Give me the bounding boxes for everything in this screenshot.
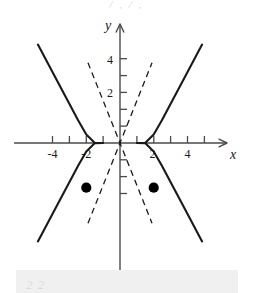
x-axis-ticks: [53, 136, 205, 143]
x-axis-label: x: [229, 147, 237, 162]
y-tick-labels: 2 4: [107, 53, 113, 101]
y-axis-label: y: [103, 18, 112, 33]
x-tick-label-4: 4: [185, 147, 191, 161]
hyperbola-plot: -4 -2 2 4 2 4 x y: [0, 0, 253, 293]
caption-band: 2 2: [16, 270, 238, 293]
x-tick-label-neg4: -4: [48, 147, 58, 161]
y-axis-ticks: [120, 59, 127, 194]
caption-text: 2 2: [26, 277, 45, 293]
y-tick-label-2: 2: [107, 86, 113, 100]
x-tick-labels: -4 -2 2 4: [48, 147, 191, 161]
hyperbola-figure: / , / ,: [0, 0, 253, 293]
y-tick-label-4: 4: [107, 53, 113, 67]
focus-point-right: [149, 183, 159, 193]
axes-group: [14, 24, 227, 278]
focus-point-left: [81, 183, 91, 193]
